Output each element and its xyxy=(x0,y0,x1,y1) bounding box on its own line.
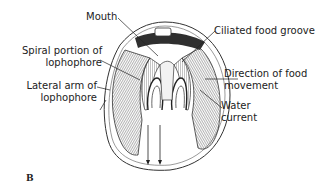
label-spiral-line1: Spiral portion of xyxy=(22,45,102,57)
label-spiral-portion: Spiral portion of lophophore xyxy=(22,45,102,69)
label-lateral-arm: Lateral arm of lophophore xyxy=(22,80,97,104)
label-ciliated-food-groove: Ciliated food groove xyxy=(214,25,315,37)
panel-letter: B xyxy=(26,173,34,183)
label-direction-line1: Direction of food xyxy=(224,68,307,80)
label-water-line2: current xyxy=(221,112,257,124)
label-water-current: Water current xyxy=(221,100,257,124)
label-direction-line2: movement xyxy=(224,80,307,92)
label-water-line1: Water xyxy=(221,100,257,112)
label-spiral-line2: lophophore xyxy=(22,57,102,69)
label-direction-of-food: Direction of food movement xyxy=(224,68,307,92)
label-mouth: Mouth xyxy=(86,11,117,23)
label-lateral-line1: Lateral arm of xyxy=(22,80,97,92)
label-lateral-line2: lophophore xyxy=(22,92,97,104)
